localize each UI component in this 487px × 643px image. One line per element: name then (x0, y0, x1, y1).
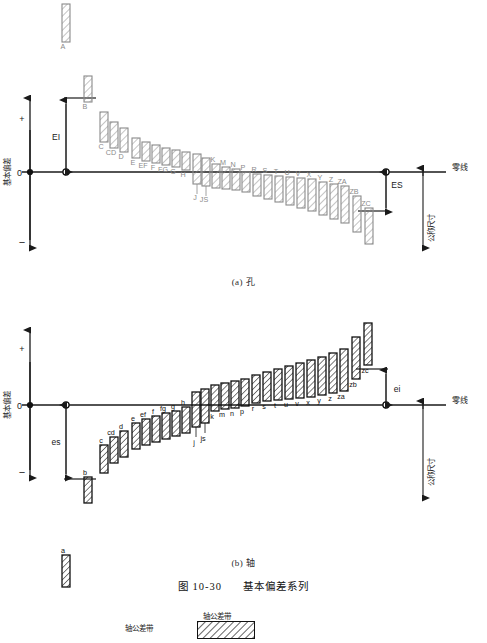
tolerance-zone-bar (319, 182, 327, 215)
bar-label-cd: cd (107, 428, 115, 437)
shaft-origin-node (27, 402, 33, 408)
legend-tolerance-zone-swatch (197, 621, 255, 639)
bar-label-s: S (263, 166, 268, 175)
bar-label-r: R (251, 165, 256, 174)
shaft-zero-tick: 0 (17, 401, 22, 411)
subfigure-b-caption: (b) 轴 (0, 556, 487, 569)
bar-label-fg: FG (158, 165, 168, 174)
tolerance-zone-bar (353, 196, 361, 232)
tolerance-zone-bar (264, 175, 272, 199)
tolerance-zone-bar (132, 423, 140, 449)
hole-zero-line-label: 零线 (452, 162, 468, 172)
bar-label-b: B (83, 102, 88, 111)
bar-label-p: P (241, 163, 246, 172)
bar-label-k: k (210, 412, 214, 421)
bar-label-t: t (274, 401, 276, 410)
bar-label-e: e (131, 414, 135, 423)
tolerance-zone-bar (275, 176, 283, 202)
bar-label-y: y (317, 396, 321, 405)
bar-label-g: G (170, 167, 176, 176)
shaft-zero-line-label: 零线 (452, 395, 468, 405)
tolerance-zone-bar (162, 148, 170, 165)
tolerance-zone-bar (308, 179, 316, 211)
bar-label-f: F (151, 163, 156, 172)
tolerance-zone-bar (352, 337, 360, 379)
tolerance-zone-bar (297, 178, 305, 208)
tolerance-zone-bar (201, 389, 209, 423)
hole-es-label: ES (391, 180, 403, 190)
shaft-minus-sign: − (19, 466, 25, 478)
tolerance-zone-bar (232, 169, 240, 190)
tolerance-zone-bar (110, 437, 118, 463)
bar-label-f: f (152, 407, 154, 416)
hole-origin-node (27, 169, 33, 175)
bar-label-t: T (274, 167, 279, 176)
bar-label-h: H (180, 170, 185, 179)
bar-label-m: M (220, 158, 226, 167)
tolerance-zone-bar (253, 174, 261, 196)
hole-tolerance-bars (62, 4, 373, 244)
tolerance-zone-bar (221, 383, 229, 409)
tolerance-zone-bar (172, 411, 180, 436)
bar-label-d: d (119, 422, 123, 431)
tolerance-zone-bar (193, 154, 201, 184)
bar-label-zb: ZB (349, 187, 358, 196)
shaft-tolerance-bars (62, 323, 372, 587)
tolerance-zone-bar (212, 164, 220, 188)
bar-label-ef: ef (140, 410, 146, 419)
bar-label-za: za (337, 392, 345, 401)
shaft-axis-title: 基本偏差 (2, 390, 12, 419)
tolerance-zone-bar (100, 445, 108, 473)
subfigure-a-caption: (a) 孔 (0, 275, 487, 288)
shaft-ei-label: ei (394, 384, 401, 394)
shaft-deviation-chart: abccddeefffgghjjskmnprstuvxyzzazbzc + − … (2, 323, 468, 587)
figure-basic-deviation-series: ABCCDDEEFFFGGHJJSKMNPRSTUVXYZZAZBZC + − … (0, 0, 487, 643)
tolerance-zone-bar (84, 76, 92, 102)
tolerance-zone-bar (330, 184, 338, 219)
tolerance-zone-bar (241, 379, 249, 406)
bar-label-c: c (99, 436, 103, 445)
bar-label-zc: ZC (361, 199, 371, 208)
bar-label-c: C (98, 142, 103, 151)
tolerance-zone-bar (242, 172, 250, 192)
tolerance-zone-bar (341, 186, 349, 223)
bar-label-a: a (61, 546, 65, 555)
bar-label-y: Y (318, 173, 323, 182)
tolerance-zone-bar (318, 357, 326, 395)
hole-axis-title: 基本偏差 (2, 157, 12, 186)
tolerance-zone-bar (110, 122, 118, 148)
shaft-es-label: es (52, 437, 61, 447)
tolerance-zone-bar (274, 369, 282, 400)
bar-label-fg: fg (160, 404, 166, 413)
tolerance-zone-bar (120, 431, 128, 457)
tolerance-zone-bar (120, 128, 128, 152)
hole-ei-label: EI (52, 132, 60, 142)
tolerance-zone-bar (296, 363, 304, 398)
bar-label-u: u (284, 400, 288, 409)
bar-label-js: JS (200, 195, 209, 204)
bar-label-z: z (328, 394, 332, 403)
tolerance-zone-bar (364, 323, 372, 365)
tolerance-zone-bar (100, 112, 108, 142)
bar-label-x: x (306, 398, 310, 407)
figure-title: 基本偏差系列 (243, 581, 309, 592)
bar-label-ef: EF (138, 161, 148, 170)
bar-label-n: n (230, 409, 234, 418)
bar-label-js: js (199, 434, 206, 443)
tolerance-zone-bar (365, 208, 373, 244)
tolerance-zone-bar (252, 375, 260, 403)
bar-label-h: h (181, 398, 185, 407)
legend-hatch-icon (197, 621, 255, 639)
bar-label-k: K (211, 155, 216, 164)
tolerance-zone-bar (211, 385, 219, 411)
bar-label-d: D (118, 152, 123, 161)
shaft-nominal-size-label: 公称尺寸 (426, 457, 436, 486)
bar-label-j: J (193, 193, 197, 202)
bar-label-x: X (307, 170, 312, 179)
tolerance-zone-bar (142, 142, 150, 161)
bar-label-j: j (192, 438, 195, 447)
tolerance-zone-bar (340, 349, 348, 391)
tolerance-zone-bar (182, 407, 190, 433)
bar-label-v: V (296, 169, 301, 178)
hole-plus-sign: + (19, 114, 24, 124)
